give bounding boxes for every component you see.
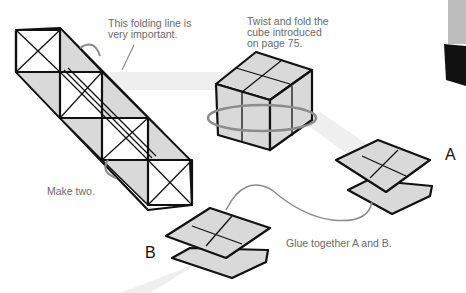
caption-glue: Glue together A and B.: [286, 238, 392, 249]
pointer-arrow-icon: [122, 45, 134, 70]
partial-object: [444, 0, 466, 86]
label-b: B: [145, 244, 156, 262]
caption-folding-line: This folding line is very important.: [108, 18, 191, 40]
cube: [216, 52, 312, 150]
origami-diagram: This folding line is very important. Twi…: [0, 0, 466, 293]
folded-strip: [16, 28, 192, 210]
caption-make-two: Make two.: [47, 186, 95, 197]
label-a: A: [445, 146, 456, 164]
caption-twist-fold: Twist and fold the cube introduced on pa…: [247, 16, 329, 49]
piece-b: [166, 208, 270, 278]
